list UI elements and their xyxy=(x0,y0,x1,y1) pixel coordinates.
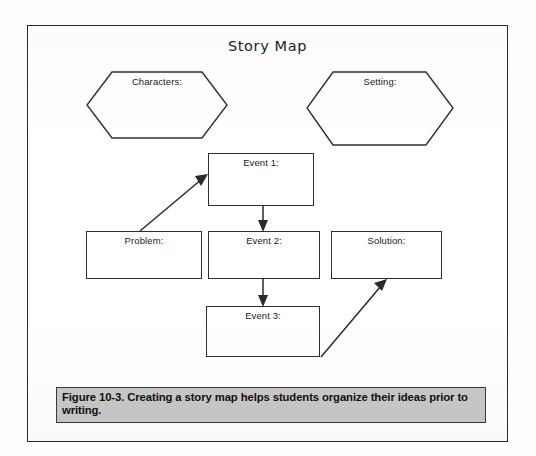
node-characters-label: Characters: xyxy=(86,76,228,87)
node-event-1[interactable]: Event 1: xyxy=(208,153,314,206)
node-characters[interactable]: Characters: xyxy=(86,71,228,139)
connector-event-3-to-solution xyxy=(321,279,387,357)
node-setting-label: Setting: xyxy=(306,76,454,87)
node-solution[interactable]: Solution: xyxy=(331,231,442,279)
node-event-3[interactable]: Event 3: xyxy=(206,306,320,357)
node-setting[interactable]: Setting: xyxy=(306,71,454,146)
node-problem-label: Problem: xyxy=(87,235,201,246)
connector-problem-to-event-1 xyxy=(140,174,208,231)
node-event-3-label: Event 3: xyxy=(207,310,319,321)
node-event-2-label: Event 2: xyxy=(209,235,319,246)
node-problem[interactable]: Problem: xyxy=(86,231,202,279)
page-title: Story Map xyxy=(28,38,507,54)
figure-caption: Figure 10-3. Creating a story map helps … xyxy=(56,387,486,423)
node-solution-label: Solution: xyxy=(332,235,441,246)
connector-event-2-to-event-3 xyxy=(258,279,268,307)
connector-event-1-to-event-2 xyxy=(258,206,268,232)
figure-frame: Story Map Characters: Setting: Event 1: … xyxy=(27,25,508,442)
node-event-1-label: Event 1: xyxy=(209,157,313,168)
node-event-2[interactable]: Event 2: xyxy=(208,231,320,279)
